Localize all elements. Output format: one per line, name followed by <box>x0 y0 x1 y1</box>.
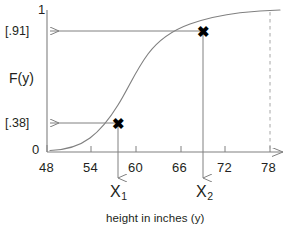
y-axis-max-label: 1 <box>38 3 45 16</box>
x2-variable-subscript: 2 <box>207 190 213 202</box>
x-tick-label-54: 54 <box>83 161 98 174</box>
x-axis-ticks <box>47 145 270 152</box>
data-point-marker-x2: ✖ <box>197 24 210 39</box>
x-tick-label-78: 78 <box>261 161 276 174</box>
x-tick-label-66: 66 <box>172 161 187 174</box>
x2-variable-label: X2 <box>196 184 213 200</box>
x-tick-label-72: 72 <box>217 161 232 174</box>
x2-variable-base: X <box>196 183 207 200</box>
y-axis-zero-label: 0 <box>32 143 39 156</box>
probability-label-upper: [.91] <box>5 25 29 38</box>
y-axis-title: F(y) <box>9 71 34 85</box>
x-tick-label-48: 48 <box>39 161 54 174</box>
x-axis-caption: height in inches (y) <box>106 213 205 225</box>
probability-label-lower: [.38] <box>5 117 29 130</box>
plot-canvas <box>0 0 306 235</box>
data-point-marker-x1: ✖ <box>112 116 125 131</box>
x1-variable-label: X1 <box>110 184 127 200</box>
x1-variable-base: X <box>110 183 121 200</box>
x1-variable-subscript: 1 <box>121 190 127 202</box>
x-tick-label-60: 60 <box>128 161 143 174</box>
cdf-figure: ✖ ✖ 1 0 [.91] [.38] F(y) 48 54 60 66 72 … <box>0 0 306 235</box>
